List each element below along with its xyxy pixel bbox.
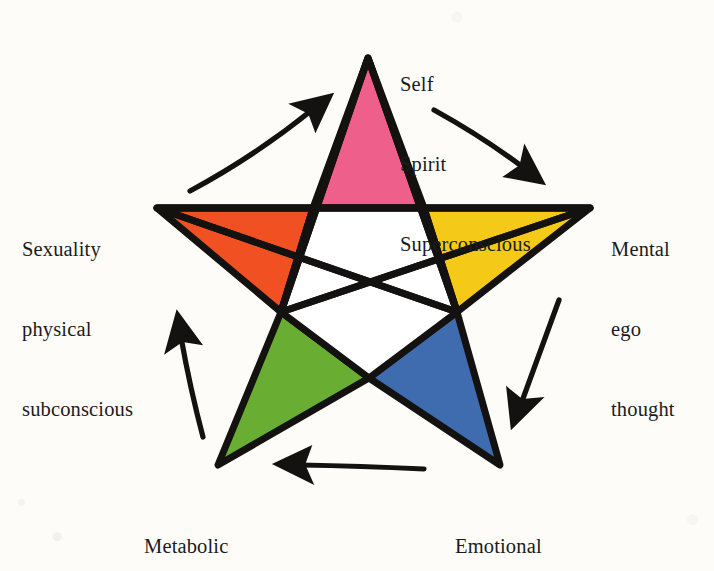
label-left-point: Sexuality physical subconscious — [22, 183, 133, 476]
label-left-line-1: Sexuality — [22, 236, 133, 263]
label-left-line-3: subconscious — [22, 396, 133, 423]
label-right-line-1: Mental — [611, 236, 675, 263]
label-right-point: Mental ego thought — [611, 183, 675, 476]
label-bottom-left-point: Metabolic etheric life — [144, 480, 228, 571]
arrow-right-to-bottom-right — [521, 300, 559, 404]
label-top-line-1: Self — [400, 71, 531, 98]
label-right-line-2: ego — [611, 316, 675, 343]
arrow-left-to-top — [190, 110, 312, 191]
label-bottom-left-line-1: Metabolic — [144, 533, 228, 560]
label-top-line-2: Spirit — [400, 151, 531, 178]
arrow-bottom-right-to-bottom-left — [300, 465, 424, 469]
label-top-line-3: Superconscious — [400, 231, 531, 258]
figure-canvas: Self Spirit Superconscious Sexuality phy… — [0, 0, 714, 571]
label-left-line-2: physical — [22, 316, 133, 343]
arrow-bottom-left-to-left — [181, 337, 203, 437]
label-bottom-right-point: Emotional astral soul — [455, 480, 542, 571]
label-bottom-right-line-1: Emotional — [455, 533, 542, 560]
label-top-point: Self Spirit Superconscious — [400, 18, 531, 311]
label-right-line-3: thought — [611, 396, 675, 423]
